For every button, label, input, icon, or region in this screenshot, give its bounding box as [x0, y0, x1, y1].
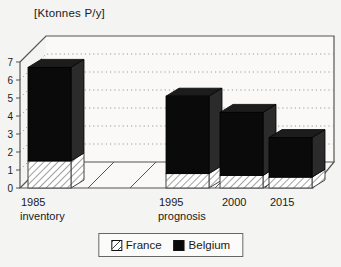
- category-sublabel-prognosis: prognosis: [158, 210, 206, 222]
- category-labels-group: 1985inventory1995prognosis20002015: [20, 196, 294, 222]
- y-axis: 01234567: [7, 57, 20, 194]
- bar-1985-belgium: [28, 67, 71, 161]
- bar-1985: [28, 59, 84, 188]
- y-tick-label-5: 5: [7, 93, 13, 104]
- legend-item-france: France: [111, 239, 162, 251]
- chart-canvas: 01234567 1985inventory1995prognosis20002…: [0, 0, 341, 267]
- bar-2015: [269, 130, 325, 188]
- y-tick-label-1: 1: [7, 165, 13, 176]
- y-tick-label-2: 2: [7, 147, 13, 158]
- bar-2000-france: [220, 175, 263, 188]
- category-label-1995: 1995: [159, 196, 183, 208]
- y-tick-label-4: 4: [7, 111, 13, 122]
- bar-1995-belgium: [166, 96, 209, 173]
- bar-2015-belgium: [269, 138, 312, 178]
- category-sublabel-inventory: inventory: [20, 210, 65, 222]
- category-label-1985: 1985: [21, 196, 45, 208]
- y-tick-label-3: 3: [7, 129, 13, 140]
- legend: France Belgium: [98, 233, 243, 257]
- bar-1995-france: [166, 174, 209, 188]
- legend-label-belgium: Belgium: [189, 239, 231, 251]
- y-tick-label-6: 6: [7, 75, 13, 86]
- bar-2000: [220, 104, 276, 188]
- category-label-2015: 2015: [270, 196, 294, 208]
- bar-2015-france: [269, 177, 312, 188]
- france-hatched-swatch-icon: [111, 240, 122, 251]
- legend-label-france: France: [126, 239, 162, 251]
- bar-2000-belgium: [220, 112, 263, 175]
- bar-1985-france: [28, 161, 71, 188]
- belgium-black-swatch-icon: [174, 240, 185, 251]
- y-tick-label-7: 7: [7, 57, 13, 68]
- bar-1995: [166, 88, 222, 188]
- legend-item-belgium: Belgium: [174, 239, 231, 251]
- bar-1985-belgium-side: [71, 59, 84, 161]
- category-label-2000: 2000: [222, 196, 246, 208]
- y-tick-label-0: 0: [7, 183, 13, 194]
